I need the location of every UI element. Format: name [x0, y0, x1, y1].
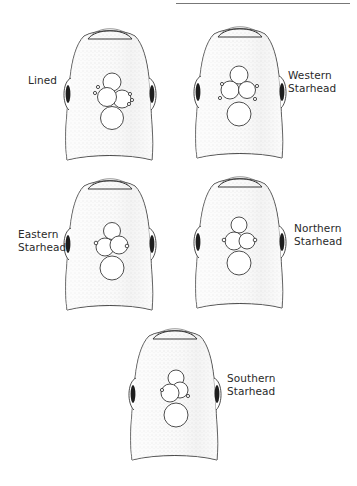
head-eastern-starhead: [64, 179, 156, 310]
head-northern-starhead: [194, 177, 286, 308]
label-eastern-line2: Starhead: [18, 241, 66, 254]
label-eastern-starhead: Eastern Starhead: [18, 228, 66, 254]
label-western-line2: Starhead: [288, 82, 336, 95]
label-western-starhead: Western Starhead: [288, 69, 336, 95]
head-western-starhead: [194, 27, 286, 158]
head-southern-starhead: [129, 329, 221, 460]
head-lined: [64, 29, 156, 160]
label-southern-line2: Starhead: [227, 385, 276, 398]
label-eastern-line1: Eastern: [18, 228, 66, 241]
label-northern-starhead: Northern Starhead: [294, 222, 342, 248]
label-southern-line1: Southern: [227, 372, 276, 385]
label-northern-line1: Northern: [294, 222, 342, 235]
label-lined: Lined: [28, 74, 57, 87]
label-lined-text: Lined: [28, 74, 57, 87]
label-northern-line2: Starhead: [294, 235, 342, 248]
label-western-line1: Western: [288, 69, 336, 82]
label-southern-starhead: Southern Starhead: [227, 372, 276, 398]
